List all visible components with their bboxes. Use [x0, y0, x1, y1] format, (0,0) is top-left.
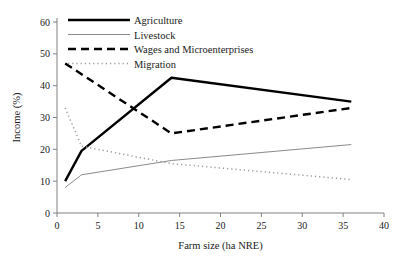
x-axis-tick-label: 25 — [256, 220, 266, 231]
y-axis-tick-label: 40 — [40, 80, 50, 91]
y-axis-tick-label: 10 — [40, 176, 50, 187]
series-line-livestock — [65, 145, 351, 188]
y-axis-tick-label: 50 — [40, 48, 50, 59]
income-vs-farm-size-line-chart: 01020304050600510152025303540Farm size (… — [0, 0, 403, 269]
x-axis-title: Farm size (ha NRE) — [178, 240, 263, 252]
series-line-wages-and-microenterprises — [65, 63, 351, 133]
chart-container: 01020304050600510152025303540Farm size (… — [0, 0, 403, 269]
x-axis-tick-label: 35 — [338, 220, 348, 231]
y-axis-tick-label: 30 — [40, 112, 50, 123]
x-axis-tick-label: 5 — [95, 220, 100, 231]
legend-label-agriculture: Agriculture — [134, 15, 183, 26]
legend-label-livestock: Livestock — [134, 30, 176, 41]
x-axis-tick-label: 30 — [297, 220, 307, 231]
legend-label-wages-and-microenterprises: Wages and Microenterprises — [134, 44, 253, 55]
legend-label-migration: Migration — [134, 59, 177, 70]
y-axis-tick-label: 60 — [40, 17, 50, 28]
x-axis-tick-label: 40 — [379, 220, 389, 231]
series-line-migration — [65, 108, 351, 180]
y-axis-tick-label: 20 — [40, 144, 50, 155]
y-axis-title: Income (%) — [11, 92, 23, 142]
x-axis-tick-label: 0 — [55, 220, 60, 231]
x-axis-tick-label: 15 — [175, 220, 185, 231]
x-axis-tick-label: 10 — [134, 220, 144, 231]
y-axis-tick-label: 0 — [45, 208, 50, 219]
series-line-agriculture — [65, 78, 351, 181]
x-axis-tick-label: 20 — [216, 220, 226, 231]
